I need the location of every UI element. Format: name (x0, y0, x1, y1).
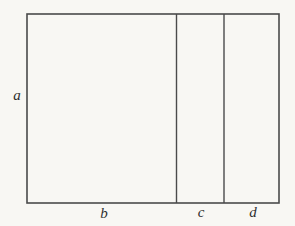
label-c: c (198, 205, 205, 220)
label-d: d (249, 205, 257, 220)
label-b: b (100, 206, 108, 221)
label-a: a (13, 88, 21, 103)
rectangle-diagram (0, 0, 295, 226)
paper-background (0, 0, 295, 226)
figure-canvas: a b c d (0, 0, 295, 226)
